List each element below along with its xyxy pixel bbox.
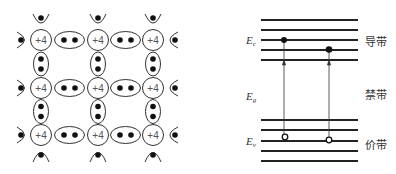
atom-charge-label: +4 — [92, 130, 104, 141]
valence-band-label: 价带 — [365, 139, 387, 152]
hole-circle — [326, 137, 332, 143]
ev-label: Ev — [245, 135, 257, 149]
band-labels: 导带 禁带 价带 — [365, 36, 387, 152]
atom-charge-label: +4 — [35, 83, 47, 94]
transition-arrows — [283, 42, 331, 137]
electron-dot — [281, 37, 287, 43]
atom-charge-label: +4 — [147, 35, 159, 46]
energy-band-diagram: Ec Eg Ev 导带 禁带 价带 — [245, 20, 387, 161]
forbidden-band-label: 禁带 — [365, 89, 387, 102]
atom-charge-label: +4 — [35, 130, 47, 141]
atom-charge-label: +4 — [147, 130, 159, 141]
atom-charge-label: +4 — [147, 83, 159, 94]
energy-labels: Ec Eg Ev — [245, 34, 257, 149]
valence-band-levels — [261, 120, 358, 161]
conduction-band-levels — [261, 20, 358, 60]
eg-label: Eg — [245, 90, 257, 104]
ec-label: Ec — [245, 34, 257, 48]
atom-charge-label: +4 — [92, 35, 104, 46]
atom-charge-label: +4 — [92, 83, 104, 94]
electron-dot — [326, 46, 333, 53]
semiconductor-diagram: +4 +4 +4 +4 +4 +4 +4 +4 +4 — [0, 0, 396, 174]
atom-charge-label: +4 — [35, 35, 47, 46]
conduction-band-label: 导带 — [365, 36, 387, 49]
hole-circle — [282, 134, 288, 140]
